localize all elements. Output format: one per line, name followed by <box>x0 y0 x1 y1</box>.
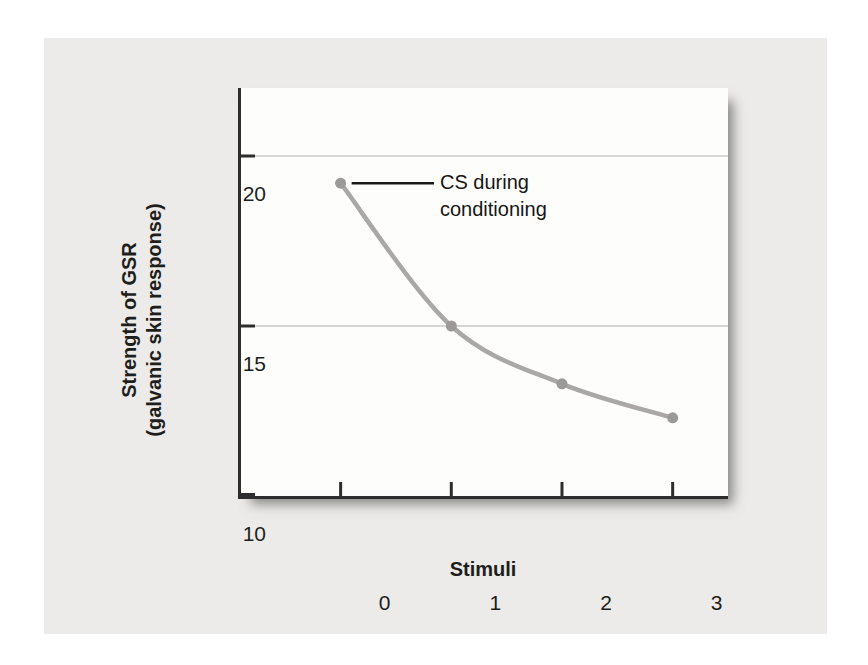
x-tick-label: 0 <box>363 590 407 616</box>
data-point-marker <box>556 378 567 389</box>
y-axis-title-line1: Strength of GSR <box>117 170 142 470</box>
annotation-line2: conditioning <box>440 196 547 223</box>
x-tick-label: 3 <box>695 590 739 616</box>
y-tick-label: 10 <box>194 521 266 547</box>
y-axis-title: Strength of GSR (galvanic skin response) <box>117 170 167 470</box>
data-point-marker <box>335 178 346 189</box>
plot-area <box>238 88 728 499</box>
data-point-marker <box>667 412 678 423</box>
annotation-cs-during-conditioning: CS during conditioning <box>440 169 547 223</box>
y-axis-title-line2: (galvanic skin response) <box>142 170 167 470</box>
y-tick-label: 15 <box>194 351 266 377</box>
y-tick-label: 20 <box>194 181 266 207</box>
figure: Strength of GSR (galvanic skin response)… <box>0 0 868 665</box>
x-axis-title: Stimuli <box>238 557 728 581</box>
x-tick-label: 1 <box>473 590 517 616</box>
x-tick-label: 2 <box>584 590 628 616</box>
chart-canvas <box>241 88 728 496</box>
data-point-marker <box>446 321 457 332</box>
figure-panel: Strength of GSR (galvanic skin response)… <box>44 38 827 634</box>
annotation-line1: CS during <box>440 169 547 196</box>
